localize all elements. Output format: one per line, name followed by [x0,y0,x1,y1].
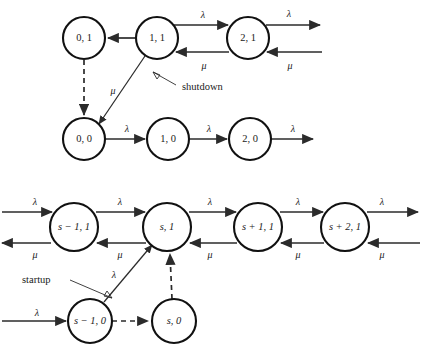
lower-chain: s − 1, 1 s, 1 s + 1, 1 s + 2, 1 s − 1, 0… [2,196,420,343]
state-label-2-1: 2, 1 [240,32,256,43]
rate-label-lambda: λ [200,9,206,20]
rate-label-lambda: λ [295,196,301,207]
state-label-1-0: 1, 0 [160,133,176,144]
startup-leader-line [70,280,112,298]
diagram-canvas: 0, 1 1, 1 2, 1 0, 0 1, 0 2, 0 λ λ μ μ μ … [0,0,422,355]
state-label-s-0: s, 0 [167,315,182,326]
state-label-s-plus-1-1: s + 1, 1 [242,221,274,232]
figure-caption-strip [0,344,422,355]
rate-label-lambda: λ [111,269,117,280]
edge-11-to-00-shutdown [99,56,145,124]
rate-label-lambda: λ [207,196,213,207]
rate-label-lambda: λ [117,196,123,207]
edge-s0-to-s1-dashed [170,254,172,299]
state-label-s-minus-1-1: s − 1, 1 [58,221,90,232]
annotation-startup: startup [22,274,51,285]
state-label-0-0: 0, 0 [76,133,92,144]
rate-label-mu: μ [206,249,212,260]
state-label-s-1: s, 1 [160,221,175,232]
rate-label-lambda: λ [124,123,130,134]
rate-label-mu: μ [286,60,292,71]
state-label-s-minus-1-0: s − 1, 0 [74,315,107,326]
upper-chain: 0, 1 1, 1 2, 1 0, 0 1, 0 2, 0 λ λ μ μ μ … [63,8,322,160]
rate-label-lambda: λ [206,123,212,134]
rate-label-lambda: λ [290,123,296,134]
state-transition-diagram: 0, 1 1, 1 2, 1 0, 0 1, 0 2, 0 λ λ μ μ μ … [0,0,422,355]
rate-label-mu: μ [378,249,384,260]
rate-label-mu: μ [109,85,115,96]
state-label-2-0: 2, 0 [242,133,258,144]
rate-label-lambda: λ [379,196,385,207]
rate-label-mu: μ [31,249,37,260]
state-label-s-plus-2-1: s + 2, 1 [329,221,361,232]
rate-label-mu: μ [116,249,122,260]
state-label-0-1: 0, 1 [76,32,92,43]
rate-label-lambda: λ [286,8,292,19]
rate-label-lambda: λ [32,196,38,207]
rate-label-mu: μ [294,249,300,260]
rate-label-lambda: λ [34,307,40,318]
rate-label-mu: μ [200,60,206,71]
annotation-shutdown: shutdown [182,81,224,92]
state-label-1-1: 1, 1 [149,32,165,43]
